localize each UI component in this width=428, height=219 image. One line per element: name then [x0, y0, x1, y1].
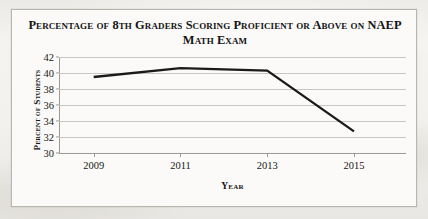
- y-tick-label-32: 32: [44, 132, 55, 143]
- x-tick-mark-2015: [354, 153, 355, 157]
- line-series-percent-proficient: [94, 68, 354, 131]
- chart-title-line-2: Math Exam: [26, 33, 404, 48]
- plot-area: 30323436384042 2009201120132015: [59, 57, 406, 153]
- y-tick-label-30: 30: [44, 148, 55, 159]
- data-series-group: [59, 57, 406, 153]
- x-tick-label-2011: 2011: [170, 160, 191, 171]
- chart-title-line-1: Percentage of 8th Graders Scoring Profic…: [26, 18, 404, 33]
- y-axis-title: Percent of Students: [32, 55, 42, 165]
- y-tick-label-34: 34: [44, 116, 55, 127]
- x-tick-mark-2013: [267, 153, 268, 157]
- y-tick-label-38: 38: [44, 84, 55, 95]
- chart-container: Percentage of 8th Graders Scoring Profic…: [11, 9, 417, 207]
- x-axis-title: Year: [59, 180, 406, 191]
- x-tick-mark-2009: [94, 153, 95, 157]
- y-tick-label-40: 40: [44, 68, 55, 79]
- x-tick-label-2013: 2013: [257, 160, 278, 171]
- x-tick-label-2009: 2009: [83, 160, 104, 171]
- x-tick-label-2015: 2015: [343, 160, 364, 171]
- y-tick-label-42: 42: [44, 52, 55, 63]
- chart-title: Percentage of 8th Graders Scoring Profic…: [26, 18, 404, 47]
- x-tick-mark-2011: [180, 153, 181, 157]
- y-tick-label-36: 36: [44, 100, 55, 111]
